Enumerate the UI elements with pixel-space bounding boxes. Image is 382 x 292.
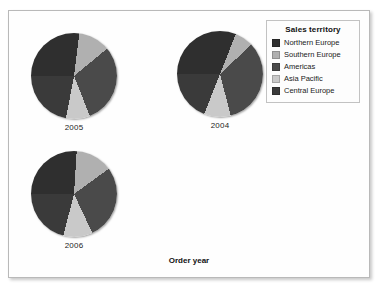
legend-label-southern-europe: Southern Europe (284, 50, 341, 59)
legend-label-northern-europe: Northern Europe (284, 38, 339, 47)
pie-chart-2004[interactable] (177, 31, 263, 117)
legend-item-northern-europe[interactable]: Northern Europe (272, 37, 354, 48)
pie-label-2006: 2006 (31, 241, 117, 250)
legend-swatch-americas (272, 63, 280, 71)
pie-label-2004: 2004 (177, 121, 263, 130)
legend: Sales territory Northern Europe Southern… (266, 20, 360, 103)
legend-title: Sales territory (272, 25, 354, 34)
legend-item-central-europe[interactable]: Central Europe (272, 85, 354, 96)
legend-swatch-southern-europe (272, 51, 280, 59)
chart-panel: 2005 2004 2006 Sales territory Northern … (8, 10, 370, 278)
legend-swatch-central-europe (272, 87, 280, 95)
legend-label-americas: Americas (284, 62, 315, 71)
pie-group-2006: 2006 (31, 151, 117, 237)
legend-item-asia-pacific[interactable]: Asia Pacific (272, 73, 354, 84)
legend-item-americas[interactable]: Americas (272, 61, 354, 72)
legend-label-asia-pacific: Asia Pacific (284, 74, 323, 83)
axis-label-order-year: Order year (9, 256, 369, 265)
pie-group-2004: 2004 (177, 31, 263, 117)
pie-chart-2005[interactable] (31, 33, 117, 119)
pie-group-2005: 2005 (31, 33, 117, 119)
legend-item-southern-europe[interactable]: Southern Europe (272, 49, 354, 60)
pie-label-2005: 2005 (31, 123, 117, 132)
legend-label-central-europe: Central Europe (284, 86, 334, 95)
pie-chart-2006[interactable] (31, 151, 117, 237)
legend-swatch-northern-europe (272, 39, 280, 47)
legend-swatch-asia-pacific (272, 75, 280, 83)
